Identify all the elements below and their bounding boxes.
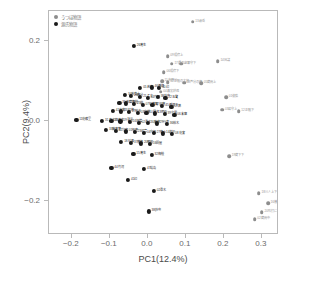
data-point[interactable] [100,119,104,123]
data-point[interactable] [165,122,169,126]
legend-marker-utsuho [54,15,58,19]
data-point[interactable] [138,86,142,90]
data-point-label: 38鈴虫 [152,210,161,213]
data-point[interactable] [136,111,140,115]
data-point[interactable] [133,130,137,134]
data-point[interactable] [152,189,156,193]
legend-label-genji: 源氏物語 [61,22,77,27]
x-axis-title: PC1(12.4%) [138,254,187,264]
data-point[interactable] [117,101,121,105]
data-point[interactable] [111,109,115,113]
data-point[interactable] [266,201,270,205]
y-axis-tick [44,40,48,41]
data-point-label: 06末摩 [177,113,186,116]
data-point[interactable] [169,105,173,109]
data-point[interactable] [129,94,133,98]
data-point[interactable] [260,210,264,214]
data-point[interactable] [162,70,166,74]
data-point[interactable] [191,20,195,24]
data-point-label: 20吹打に上 [264,210,278,213]
data-point[interactable] [129,141,133,145]
plot-area: 13嵌岳09規宿上17樓の上下07君守下06規宿下11吉野川12正頼の大将08芦… [48,10,278,234]
legend-marker-genji [54,22,58,26]
legend-item-utsuho[interactable]: うつほ物語 [54,14,81,20]
data-point[interactable] [166,54,170,58]
data-point[interactable] [180,62,184,66]
data-point[interactable] [163,96,167,100]
data-point[interactable] [152,131,156,135]
data-point-label: 32梅枝 [155,153,164,156]
data-point[interactable] [160,104,164,108]
data-point[interactable] [153,111,157,115]
data-point[interactable] [159,90,163,94]
data-point[interactable] [147,209,151,213]
data-point[interactable] [172,113,176,117]
data-point[interactable] [182,81,186,85]
data-point-label: 44竹河 [114,166,123,169]
data-point-label: 22玉鬘 [168,96,177,99]
data-point[interactable] [139,141,143,145]
data-point[interactable] [224,95,228,99]
data-point[interactable] [132,102,136,106]
data-point[interactable] [119,140,123,144]
data-point[interactable] [137,121,141,125]
data-point[interactable] [216,59,220,63]
y-axis-tick-label: −0.2 [24,196,40,205]
x-axis-tick-label: 0.2 [217,239,228,248]
data-point[interactable] [146,96,150,100]
data-point[interactable] [142,167,146,171]
legend-item-genji[interactable]: 源氏物語 [54,21,81,27]
data-point[interactable] [118,119,122,123]
data-point-label: 16関屋 [153,142,162,145]
data-point[interactable] [221,108,225,112]
data-point[interactable] [257,192,261,196]
data-point[interactable] [124,101,128,105]
data-point[interactable] [124,129,128,133]
legend: うつほ物語 源氏物語 [54,14,81,27]
data-point[interactable] [161,131,165,135]
data-point[interactable] [138,95,142,99]
data-point[interactable] [131,152,135,156]
data-point[interactable] [140,103,144,107]
data-point[interactable] [126,178,130,182]
data-point-label: 01俊蔭 [229,95,238,98]
data-point[interactable] [166,80,170,84]
data-point[interactable] [119,109,123,113]
data-point-label: 11花散里 [79,118,91,121]
data-point[interactable] [142,131,146,135]
data-point[interactable] [114,129,118,133]
y-axis-tick [44,200,48,201]
x-axis-tick [109,234,110,238]
data-point-label: 18川人上下 [261,192,276,195]
data-point[interactable] [170,132,174,136]
data-point-label: 19蔵下下 [232,154,244,157]
data-point-label: 04義実辞退 [163,90,178,93]
x-axis-tick-label: −0.2 [63,239,79,248]
x-axis-tick [147,234,148,238]
data-point[interactable] [132,44,136,48]
data-point[interactable] [237,110,241,114]
data-point[interactable] [127,110,131,114]
x-axis-tick [223,234,224,238]
data-point-label: 47総角 [147,167,156,170]
data-point[interactable] [74,118,78,122]
data-point[interactable] [109,166,113,170]
data-point[interactable] [109,119,113,123]
data-point[interactable] [162,112,166,116]
data-point-label: 07君守下 [184,62,196,65]
data-point-label: 03君守上 [225,108,237,111]
data-point[interactable] [199,81,203,85]
data-point[interactable] [253,217,257,221]
y-axis-tick-label: 0.2 [29,36,40,45]
data-point[interactable] [104,128,108,132]
data-point[interactable] [128,120,132,124]
data-point[interactable] [123,93,127,97]
data-point[interactable] [155,121,159,125]
x-axis-tick-label: 0.1 [179,239,190,248]
data-point[interactable] [227,154,231,158]
data-point[interactable] [170,62,174,66]
data-point[interactable] [150,153,154,157]
data-point[interactable] [150,85,154,89]
data-point[interactable] [160,80,164,84]
data-point[interactable] [148,142,152,146]
